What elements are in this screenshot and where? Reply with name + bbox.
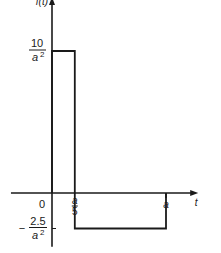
lower-level-numerator: 2.5 [30,215,45,227]
x-axis-label: t [195,197,199,208]
end-point-label: a [163,199,169,210]
lower-level-sign: − [19,222,25,234]
y-axis-arrow-icon [49,0,55,5]
y-axis-label: f(t) [36,0,48,7]
upper-level-numerator: 10 [31,37,43,49]
breakpoint-label: a 5 [72,195,78,217]
upper-level-exponent: 2 [40,50,45,59]
breakpoint-denominator: 5 [72,206,78,217]
upper-level-denominator: a [32,51,38,63]
lower-level-exponent: 2 [40,228,45,237]
breakpoint-numerator: a [72,195,78,206]
function-plot: f(t) t 0 10 a 2 − 2.5 a 2 a 5 a [0,0,221,253]
x-axis-arrow-icon [190,190,198,196]
upper-level-label: 10 a 2 [29,37,46,63]
lower-level-denominator: a [32,229,38,241]
lower-level-label: − 2.5 a 2 [19,215,47,241]
origin-label: 0 [39,198,45,210]
function-line [52,51,166,229]
